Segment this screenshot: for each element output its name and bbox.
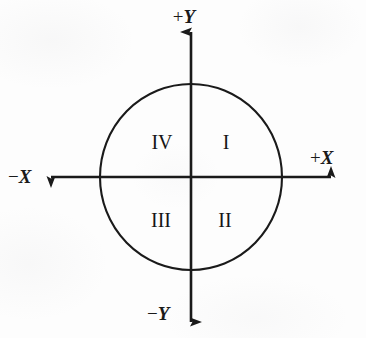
quadrant-diagram: +Y −Y +X −X IV I III II [0,0,366,338]
axis-label-negative-x: −X [8,166,31,188]
quadrant-label-lower-right: II [218,209,231,232]
quadrant-label-upper-left: IV [151,131,172,154]
axis-sign-negative-y: − [147,303,158,324]
axis-variable-positive-x: X [321,147,334,168]
axis-label-negative-y: −Y [147,303,169,325]
axis-label-positive-y: +Y [173,6,195,28]
axis-sign-positive-y: + [173,6,184,27]
axis-label-positive-x: +X [310,147,333,169]
axis-sign-negative-x: − [8,166,19,187]
quadrant-label-upper-right: I [223,131,230,154]
axis-variable-negative-x: X [19,166,32,187]
axis-variable-negative-y: Y [158,303,170,324]
axis-sign-positive-x: + [310,147,321,168]
quadrant-label-lower-left: III [151,209,171,232]
coordinate-figure [0,0,366,338]
axis-variable-positive-y: Y [184,6,196,27]
